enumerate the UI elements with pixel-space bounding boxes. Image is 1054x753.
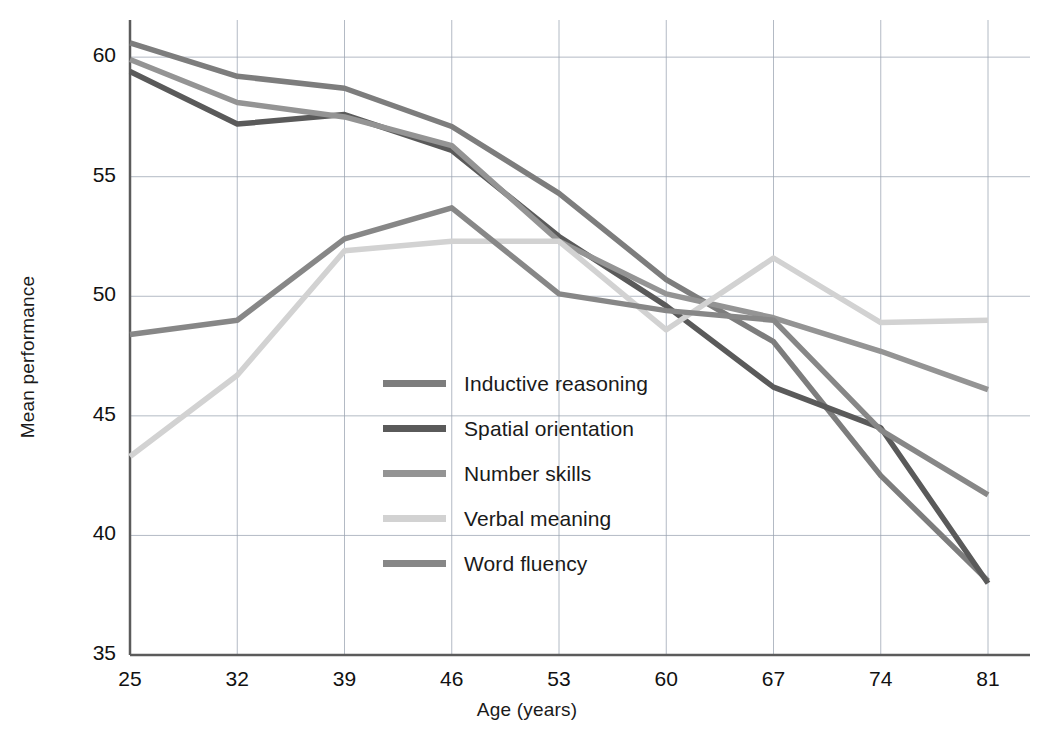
legend-label: Number skills <box>464 462 591 486</box>
x-tick-label: 32 <box>207 667 267 691</box>
legend-swatch-icon <box>383 380 446 387</box>
legend-item[interactable]: Spatial orientation <box>383 406 648 451</box>
legend-swatch-icon <box>383 425 446 432</box>
legend-label: Spatial orientation <box>464 417 634 441</box>
legend-item[interactable]: Verbal meaning <box>383 496 648 541</box>
legend-swatch-icon <box>383 560 446 567</box>
legend-label: Inductive reasoning <box>464 372 648 396</box>
legend-swatch-icon <box>383 515 446 522</box>
x-tick-label: 39 <box>315 667 375 691</box>
y-tick-label: 55 <box>60 163 116 187</box>
x-axis-title: Age (years) <box>0 699 1054 721</box>
x-tick-label: 25 <box>100 667 160 691</box>
legend-item[interactable]: Word fluency <box>383 541 648 586</box>
y-axis-title: Mean performance <box>17 267 39 447</box>
x-tick-label: 60 <box>636 667 696 691</box>
legend-swatch-icon <box>383 470 446 477</box>
x-tick-label: 81 <box>958 667 1018 691</box>
legend-item[interactable]: Number skills <box>383 451 648 496</box>
y-tick-label: 40 <box>60 521 116 545</box>
y-tick-label: 35 <box>60 641 116 665</box>
x-tick-label: 74 <box>851 667 911 691</box>
x-tick-label: 53 <box>529 667 589 691</box>
y-tick-label: 50 <box>60 282 116 306</box>
legend-label: Verbal meaning <box>464 507 611 531</box>
y-tick-label: 45 <box>60 402 116 426</box>
legend-item[interactable]: Inductive reasoning <box>383 361 648 406</box>
y-tick-label: 60 <box>60 43 116 67</box>
legend-label: Word fluency <box>464 552 587 576</box>
chart-legend: Inductive reasoningSpatial orientationNu… <box>383 361 648 586</box>
x-tick-label: 46 <box>422 667 482 691</box>
x-tick-label: 67 <box>744 667 804 691</box>
line-chart: 354045505560253239465360677481 Inductive… <box>0 0 1054 753</box>
